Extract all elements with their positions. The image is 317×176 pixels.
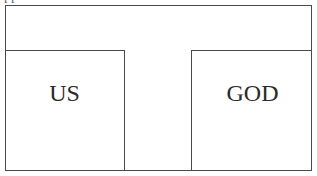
box-god: GOD bbox=[191, 50, 313, 171]
box-us-label: US bbox=[49, 81, 80, 105]
box-us: US bbox=[5, 50, 125, 171]
box-god-label: GOD bbox=[227, 81, 279, 105]
cutoff-caption-fragment: pp bbox=[4, 0, 18, 3]
